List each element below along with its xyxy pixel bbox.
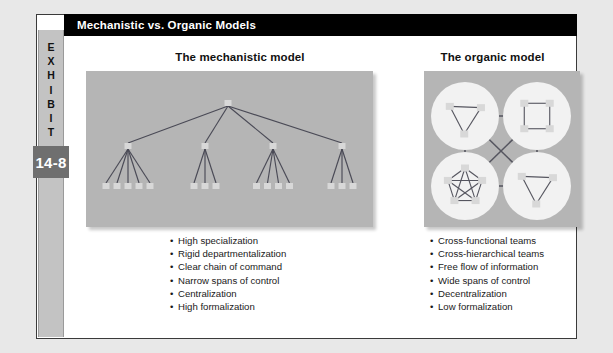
bullet-item: Cross-functional teams: [430, 234, 544, 247]
exhibit-number-badge: 14-8: [33, 146, 69, 178]
tree-link: [106, 149, 128, 183]
mechanistic-heading: The mechanistic model: [130, 51, 350, 63]
cluster-node: [472, 197, 480, 204]
tree-node-leaf: [103, 183, 110, 189]
cluster-node: [460, 130, 468, 137]
bullet-item: Decentralization: [430, 287, 544, 300]
tree-node-leaf: [202, 183, 209, 189]
tree-node-manager: [202, 143, 209, 149]
title-bar: Mechanistic vs. Organic Models: [64, 14, 577, 36]
tree-link: [128, 106, 228, 143]
tree-node-leaf: [147, 183, 154, 189]
cluster-node: [518, 173, 526, 180]
bullet-item: Clear chain of command: [170, 260, 286, 273]
bullet-item: Rigid departmentalization: [170, 247, 286, 260]
tree-node-leaf: [213, 183, 220, 189]
tree-link: [128, 149, 150, 183]
cluster-node: [546, 125, 554, 132]
bullet-item: Cross-hierarchical teams: [430, 247, 544, 260]
tree-node-manager: [339, 143, 346, 149]
tree-link: [205, 149, 216, 183]
tree-node-leaf: [253, 183, 260, 189]
tree-node-leaf: [328, 183, 335, 189]
organic-bullet-list: Cross-functional teamsCross-hierarchical…: [430, 234, 544, 313]
exhibit-label: EXHIBIT: [38, 36, 64, 146]
tree-link: [228, 106, 342, 143]
cluster-node: [461, 165, 469, 172]
cluster-node: [444, 177, 452, 184]
organic-heading: The organic model: [405, 51, 580, 63]
bullet-item: Narrow spans of control: [170, 274, 286, 287]
cluster-circle: [503, 152, 571, 220]
cluster-node: [478, 177, 486, 184]
tree-link: [128, 149, 139, 183]
page-title: Mechanistic vs. Organic Models: [64, 19, 256, 31]
tree-link: [342, 149, 353, 183]
mechanistic-bullet-list: High specializationRigid departmentaliza…: [170, 234, 286, 313]
tree-link: [194, 149, 205, 183]
tree-nodes: [103, 100, 357, 189]
tree-node-root: [225, 100, 232, 106]
mechanistic-tree-svg: [86, 71, 373, 227]
tree-link: [205, 106, 228, 143]
tree-node-leaf: [136, 183, 143, 189]
organic-network-svg: [424, 71, 580, 227]
tree-link: [228, 106, 273, 143]
tree-node-leaf: [191, 183, 198, 189]
cluster-circle: [503, 82, 571, 150]
cluster-node: [549, 174, 557, 181]
bullet-item: Centralization: [170, 287, 286, 300]
tree-node-leaf: [264, 183, 271, 189]
cluster-circle: [431, 82, 499, 150]
bullet-item: Wide spans of control: [430, 274, 544, 287]
tree-links: [106, 106, 353, 183]
mechanistic-diagram-panel: [86, 71, 373, 227]
tree-node-leaf: [286, 183, 293, 189]
bullet-item: High specialization: [170, 234, 286, 247]
tree-link: [331, 149, 342, 183]
bullet-item: Free flow of information: [430, 260, 544, 273]
organic-diagram-panel: [424, 71, 580, 227]
tree-node-leaf: [350, 183, 357, 189]
bullet-item: Low formalization: [430, 300, 544, 313]
cluster-circle: [431, 152, 499, 220]
tree-link: [117, 149, 128, 183]
cluster-node: [520, 125, 528, 132]
tree-node-leaf: [125, 183, 132, 189]
cluster-node: [520, 100, 528, 107]
cluster-node: [532, 200, 540, 207]
tree-node-leaf: [275, 183, 282, 189]
cluster-node: [446, 103, 454, 110]
tree-node-manager: [125, 143, 132, 149]
tree-node-leaf: [339, 183, 346, 189]
tree-node-manager: [270, 143, 277, 149]
bullet-item: High formalization: [170, 300, 286, 313]
cluster-node: [546, 100, 554, 107]
cluster-node: [450, 197, 458, 204]
tree-node-leaf: [114, 183, 121, 189]
cluster-node: [477, 104, 485, 111]
